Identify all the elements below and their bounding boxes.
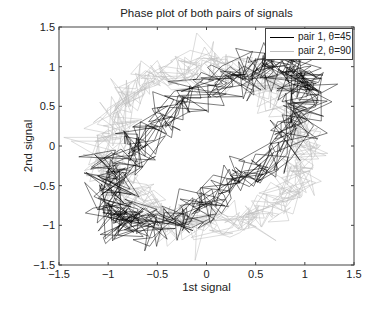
- legend-label: pair 2, θ=90: [298, 45, 351, 56]
- x-tick-label: −1: [102, 268, 115, 280]
- legend-swatch-line: [270, 37, 294, 38]
- x-tick-label: −0.5: [146, 268, 168, 280]
- y-tick-label: 0: [49, 140, 55, 152]
- plot-series: [64, 33, 338, 260]
- chart-title: Phase plot of both pairs of signals: [59, 7, 354, 19]
- legend-label: pair 1, θ=45: [298, 31, 351, 42]
- y-tick-label: −1: [42, 219, 55, 231]
- legend-item-pair-1: pair 1, θ=45: [266, 30, 352, 44]
- x-tick-label: 0: [203, 268, 209, 280]
- axes-box: [59, 27, 354, 265]
- y-tick-label: 1: [49, 61, 55, 73]
- legend-item-pair-2: pair 2, θ=90: [266, 44, 352, 58]
- y-tick-label: −1.5: [33, 259, 55, 271]
- y-tick-label: 1.5: [40, 21, 55, 33]
- x-tick-label: 1.5: [346, 268, 361, 280]
- y-axis-label: 2nd signal: [22, 106, 34, 186]
- x-tick-label: 1: [302, 268, 308, 280]
- y-tick-label: −0.5: [33, 180, 55, 192]
- legend: pair 1, θ=45 pair 2, θ=90: [265, 28, 353, 60]
- x-tick-label: 0.5: [248, 268, 263, 280]
- y-tick-label: 0.5: [40, 100, 55, 112]
- legend-swatch-line: [270, 51, 294, 52]
- x-axis-label: 1st signal: [59, 281, 354, 293]
